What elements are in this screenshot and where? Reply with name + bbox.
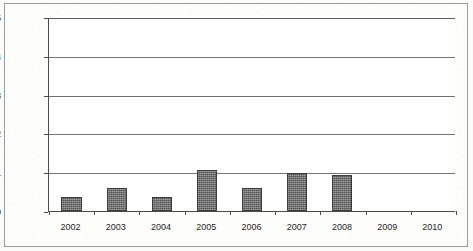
x-tick-mark-1 bbox=[94, 211, 95, 215]
x-tick-label-2002: 2002 bbox=[48, 220, 93, 234]
y-tick-mark-4 bbox=[44, 57, 48, 58]
x-tick-mark-6 bbox=[320, 211, 321, 215]
x-tick-mark-3 bbox=[185, 211, 186, 215]
x-tick-label-2004: 2004 bbox=[138, 220, 183, 234]
bar-slot-2007 bbox=[275, 18, 320, 211]
x-tick-label-2006: 2006 bbox=[229, 220, 274, 234]
bar-2003 bbox=[107, 188, 127, 211]
y-tick-mark-3 bbox=[44, 96, 48, 97]
y-tick-label-0: 0 bbox=[0, 207, 1, 217]
y-tick-label-5: 5 bbox=[0, 13, 1, 23]
x-tick-mark-4 bbox=[230, 211, 231, 215]
bar-slot-2003 bbox=[94, 18, 139, 211]
y-tick-label-4: 4 bbox=[0, 52, 1, 62]
x-axis-tick-labels: 200220032004200520062007200820092010 bbox=[48, 220, 455, 234]
y-tick-mark-2 bbox=[44, 134, 48, 135]
x-tick-label-2003: 2003 bbox=[93, 220, 138, 234]
bar-2006 bbox=[242, 188, 262, 211]
bar-2004 bbox=[152, 197, 172, 211]
x-tick-mark-9 bbox=[456, 211, 457, 215]
x-tick-label-2010: 2010 bbox=[410, 220, 455, 234]
bar-slot-2009 bbox=[365, 18, 410, 211]
y-tick-label-2: 2 bbox=[0, 129, 1, 139]
x-tick-mark-8 bbox=[411, 211, 412, 215]
bar-slot-2005 bbox=[184, 18, 229, 211]
x-tick-label-2007: 2007 bbox=[274, 220, 319, 234]
bar-2007 bbox=[287, 173, 307, 211]
x-tick-mark-0 bbox=[49, 211, 50, 215]
bar-slot-2002 bbox=[49, 18, 94, 211]
y-tick-mark-5 bbox=[44, 18, 48, 19]
plot-area bbox=[48, 18, 455, 212]
bar-2002 bbox=[61, 197, 81, 211]
bar-slot-2006 bbox=[229, 18, 274, 211]
bar-series bbox=[49, 18, 455, 211]
bar-2005 bbox=[197, 170, 217, 211]
bar-slot-2010 bbox=[410, 18, 455, 211]
bar-slot-2008 bbox=[320, 18, 365, 211]
bar-2008 bbox=[332, 175, 352, 211]
y-tick-mark-0 bbox=[44, 212, 48, 213]
y-tick-label-1: 1 bbox=[0, 168, 1, 178]
chart-figure: Reduction in MMBtu/ksf 012345 2002200320… bbox=[0, 0, 473, 251]
x-tick-mark-2 bbox=[139, 211, 140, 215]
y-tick-label-3: 3 bbox=[0, 91, 1, 101]
x-tick-label-2009: 2009 bbox=[365, 220, 410, 234]
x-tick-mark-7 bbox=[366, 211, 367, 215]
bar-slot-2004 bbox=[139, 18, 184, 211]
y-tick-mark-1 bbox=[44, 173, 48, 174]
x-tick-mark-5 bbox=[275, 211, 276, 215]
x-tick-label-2005: 2005 bbox=[184, 220, 229, 234]
x-tick-label-2008: 2008 bbox=[319, 220, 364, 234]
